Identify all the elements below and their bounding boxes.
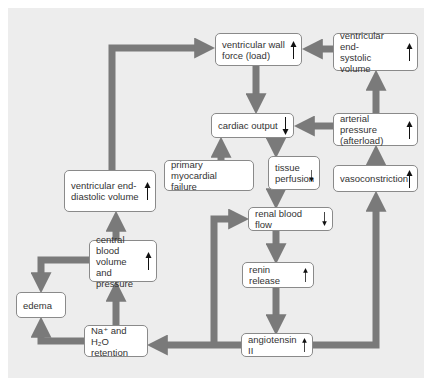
up-arrow-icon bbox=[406, 170, 413, 188]
node-na-h2o-retention: Na⁺ and H₂O retention bbox=[84, 325, 148, 357]
edv-to-wall-force-arrow bbox=[112, 48, 204, 170]
up-arrow-icon bbox=[302, 268, 309, 282]
node-ventricular-end-diastolic-volume: ventricular end- diastolic volume bbox=[64, 170, 156, 212]
angiotensin-to-renal-arrow bbox=[214, 219, 238, 345]
down-arrow-icon bbox=[321, 212, 328, 226]
node-primary-myocardial-failure: primary myocardial failure bbox=[164, 160, 254, 191]
up-arrow-icon bbox=[290, 41, 297, 59]
up-arrow-icon bbox=[145, 252, 152, 270]
node-vasoconstriction: vasoconstriction bbox=[333, 165, 418, 192]
node-edema: edema bbox=[16, 292, 66, 318]
up-arrow-icon bbox=[144, 182, 151, 200]
up-arrow-icon bbox=[406, 121, 413, 139]
down-arrow-icon bbox=[282, 117, 289, 135]
na-retention-to-edema-arrow bbox=[41, 328, 84, 341]
down-arrow-icon bbox=[308, 170, 315, 182]
node-ventricular-end-systolic-volume: ventricular end- systolic volume bbox=[333, 33, 418, 71]
up-arrow-icon bbox=[301, 338, 308, 352]
node-tissue-perfusion: tissue perfusion bbox=[268, 156, 320, 190]
node-ventricular-wall-force: ventricular wall force (load) bbox=[215, 33, 302, 66]
node-angiotensin-ii: angiotensin II bbox=[241, 333, 313, 357]
node-arterial-pressure: arterial pressure (afterload) bbox=[333, 113, 418, 146]
node-renal-blood-flow: renal blood flow bbox=[248, 207, 333, 231]
up-arrow-icon bbox=[406, 43, 413, 61]
node-renin-release: renin release bbox=[242, 262, 314, 288]
node-cardiac-output: cardiac output bbox=[211, 113, 294, 138]
node-central-blood-volume: central blood volume and pressure bbox=[89, 240, 157, 282]
central-volume-to-edema-arrow bbox=[41, 260, 89, 282]
